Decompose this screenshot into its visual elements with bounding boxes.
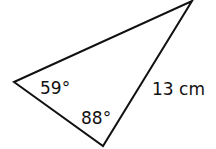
triangle-diagram: 59° 88° 13 cm [0, 0, 216, 149]
angle-label-left: 59° [40, 78, 70, 98]
side-length-label: 13 cm [152, 79, 205, 99]
angle-label-bottom: 88° [81, 108, 111, 128]
